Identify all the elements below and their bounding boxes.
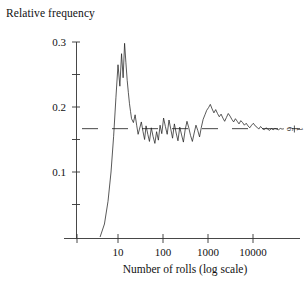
x-tick-label-1000: 1000 [197,246,220,258]
y-tick-label-0-2: 0.2 [52,101,66,113]
x-axis-title: Number of rolls (log scale) [123,263,248,276]
x-tick-label-100: 100 [155,246,172,258]
one-sixth-fraction-label: 1 6 [285,126,305,133]
y-tick-label-0-1: 0.1 [52,166,66,178]
y-axis-ticks [72,42,80,205]
chart-page: Relative frequency 0.3 0.2 0.1 10 [0,0,308,294]
relative-frequency-curve [100,43,284,237]
relative-frequency-chart: 0.3 0.2 0.1 10 100 1000 10000 Number of … [0,0,308,294]
x-tick-label-10000: 10000 [239,246,267,258]
x-tick-label-10: 10 [113,246,125,258]
fraction-denominator: 6 [285,127,295,131]
fraction-numerator: 1 [295,127,305,131]
y-tick-label-0-3: 0.3 [52,36,66,48]
